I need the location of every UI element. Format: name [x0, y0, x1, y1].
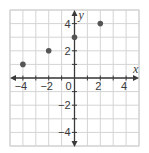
- y-axis-arrow-up-icon: [72, 10, 78, 16]
- y-tick-label: −2: [58, 99, 71, 111]
- y-tick-label: 2: [64, 45, 70, 57]
- x-tick-label: 4: [121, 80, 127, 92]
- y-axis-label: y: [78, 8, 85, 22]
- x-tick-label: −2: [40, 80, 53, 92]
- data-point: [98, 21, 104, 27]
- x-tick-label: 2: [95, 80, 101, 92]
- coordinate-plane: −4−2024−4−224 x y: [0, 0, 149, 153]
- data-point: [72, 34, 78, 40]
- x-tick-label: −4: [15, 80, 28, 92]
- x-tick-label: 0: [65, 80, 71, 92]
- y-tick-label: −4: [58, 126, 71, 138]
- x-axis-label: x: [132, 62, 139, 76]
- data-point: [20, 62, 26, 68]
- y-tick-label: 4: [64, 18, 70, 30]
- data-point: [46, 48, 52, 54]
- axes: [10, 10, 139, 147]
